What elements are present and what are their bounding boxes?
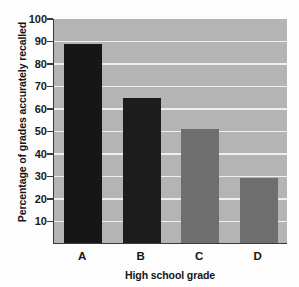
bar-b — [123, 98, 161, 243]
bar-a — [64, 44, 102, 243]
y-tick-label: 90 — [7, 36, 47, 47]
bar-chart-figure: Percentage of grades accurately recalled… — [0, 0, 299, 287]
y-tick-label: 40 — [7, 149, 47, 160]
y-tick-label: 30 — [7, 171, 47, 182]
x-tick-label-c: C — [179, 250, 219, 262]
y-tick-label: 20 — [7, 194, 47, 205]
x-tick-label-a: A — [62, 250, 102, 262]
y-tick-label: 50 — [7, 126, 47, 137]
y-tick-label: 100 — [7, 14, 47, 25]
x-axis-title: High school grade — [53, 269, 287, 281]
y-tick-label: 80 — [7, 59, 47, 70]
y-tick-label: 60 — [7, 104, 47, 115]
y-tick-label: 70 — [7, 81, 47, 92]
x-tick-label-d: D — [238, 250, 278, 262]
x-tick-label-b: B — [121, 250, 161, 262]
bar-d — [240, 178, 278, 243]
gridline — [54, 41, 287, 43]
bar-c — [181, 129, 219, 243]
y-tick-label: 10 — [7, 216, 47, 227]
plot-area — [53, 19, 287, 244]
